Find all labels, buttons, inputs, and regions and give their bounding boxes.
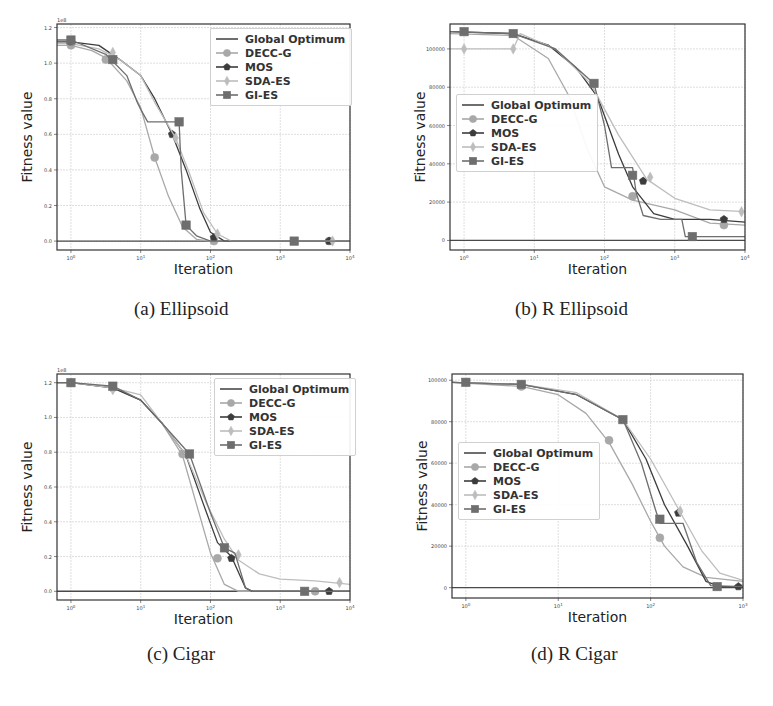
x-tick-label: 100 [66, 254, 75, 261]
circle-marker-icon [469, 115, 476, 122]
x-tick-label: 100 [66, 604, 75, 611]
square-marker-icon [656, 515, 664, 523]
x-axis-label: Iteration [568, 609, 627, 625]
y-tick-label: 0.4 [44, 519, 52, 525]
x-tick-label: 101 [530, 254, 539, 261]
y-tick-label: 80000 [431, 419, 447, 425]
legend-item: MOS [463, 474, 593, 488]
legend-label: GI-ES [491, 155, 524, 168]
diamond-marker-icon [739, 206, 745, 216]
x-tick-label: 100 [461, 602, 470, 609]
x-tick-label: 101 [554, 602, 563, 609]
legend-swatch-icon [463, 490, 487, 500]
legend-label: Global Optimum [249, 383, 349, 396]
legend-item: DECC-G [463, 460, 593, 474]
y-tick-label: 0.6 [44, 131, 52, 137]
y-tick-label: 1.2 [44, 380, 52, 386]
x-tick-label: 102 [206, 604, 215, 611]
legend-swatch-icon [215, 48, 239, 58]
y-tick-label: 0.8 [44, 96, 52, 102]
y-tick-label: 100000 [426, 46, 445, 52]
square-marker-icon [223, 91, 230, 98]
y-tick-label: 1.2 [44, 25, 52, 31]
y-tick-label: 20000 [429, 199, 445, 205]
legend-item: MOS [461, 126, 591, 140]
square-marker-icon [688, 232, 696, 240]
pentagon-marker-icon [470, 129, 477, 136]
legend-swatch-icon [463, 504, 487, 514]
square-marker-icon [182, 221, 190, 229]
chart-legend: Global OptimumDECC-GMOSSDA-ESGI-ES [214, 378, 356, 456]
legend-item: Global Optimum [463, 446, 593, 460]
y-tick-label: 20000 [431, 543, 447, 549]
legend-swatch-icon [215, 90, 239, 100]
chart-legend: Global OptimumDECC-GMOSSDA-ESGI-ES [456, 94, 598, 172]
legend-item: GI-ES [463, 502, 593, 516]
square-marker-icon [290, 237, 298, 245]
legend-label: Global Optimum [493, 447, 593, 460]
legend-item: GI-ES [461, 154, 591, 168]
square-marker-icon [220, 544, 228, 552]
legend-swatch-icon [219, 398, 243, 408]
legend-swatch-icon [463, 448, 487, 458]
pentagon-marker-icon [720, 215, 728, 222]
x-tick-label: 102 [600, 254, 609, 261]
chart-panel-r-cigar: 100101102103020000400006000080000100000I… [386, 345, 773, 635]
legend-swatch-icon [463, 476, 487, 486]
legend-swatch-icon [219, 384, 243, 394]
square-marker-icon [109, 382, 117, 390]
square-marker-icon [628, 171, 636, 179]
y-tick-label: 40000 [431, 502, 447, 508]
legend-item: SDA-ES [215, 74, 345, 88]
x-tick-label: 104 [346, 604, 355, 611]
caption-r-cigar: (d) R Cigar [531, 643, 618, 665]
x-tick-label: 102 [206, 254, 215, 261]
pentagon-marker-icon [224, 63, 231, 70]
diamond-marker-icon [470, 142, 475, 151]
x-tick-label: 103 [276, 604, 285, 611]
legend-swatch-icon [215, 76, 239, 86]
legend-label: DECC-G [249, 397, 296, 410]
y-tick-label: 0 [442, 237, 445, 243]
legend-label: Global Optimum [491, 99, 591, 112]
square-marker-icon [300, 587, 308, 595]
diamond-marker-icon [228, 426, 233, 435]
square-marker-icon [469, 157, 476, 164]
square-marker-icon [109, 55, 117, 63]
legend-item: GI-ES [215, 88, 345, 102]
square-marker-icon [471, 505, 478, 512]
circle-marker-icon [151, 153, 159, 161]
legend-item: SDA-ES [219, 424, 349, 438]
legend-item: Global Optimum [461, 98, 591, 112]
y-tick-label: 0.4 [44, 167, 52, 173]
x-tick-label: 101 [136, 604, 145, 611]
legend-label: DECC-G [491, 113, 538, 126]
legend-label: DECC-G [493, 461, 540, 474]
y-multiplier-label: 1e8 [57, 367, 66, 373]
legend-label: GI-ES [493, 503, 526, 516]
square-marker-icon [185, 450, 193, 458]
legend-swatch-icon [461, 100, 485, 110]
circle-marker-icon [656, 534, 664, 542]
legend-label: SDA-ES [493, 489, 539, 502]
square-marker-icon [509, 29, 517, 37]
legend-swatch-icon [461, 128, 485, 138]
legend-swatch-icon [463, 462, 487, 472]
pentagon-marker-icon [228, 554, 236, 561]
legend-item: GI-ES [219, 438, 349, 452]
y-tick-label: 0.2 [44, 554, 52, 560]
legend-item: DECC-G [461, 112, 591, 126]
legend-swatch-icon [219, 412, 243, 422]
legend-label: GI-ES [245, 89, 278, 102]
circle-marker-icon [629, 192, 637, 200]
circle-marker-icon [213, 554, 221, 562]
chart-panel-ellipsoid: 1001011021031040.00.20.40.60.81.01.21e8I… [0, 0, 386, 290]
legend-swatch-icon [461, 142, 485, 152]
legend-swatch-icon [215, 62, 239, 72]
x-axis-label: Iteration [174, 611, 233, 627]
y-tick-label: 60000 [431, 460, 447, 466]
diamond-marker-icon [461, 44, 467, 54]
y-tick-label: 60000 [429, 123, 445, 129]
legend-swatch-icon [219, 440, 243, 450]
legend-item: Global Optimum [215, 32, 345, 46]
